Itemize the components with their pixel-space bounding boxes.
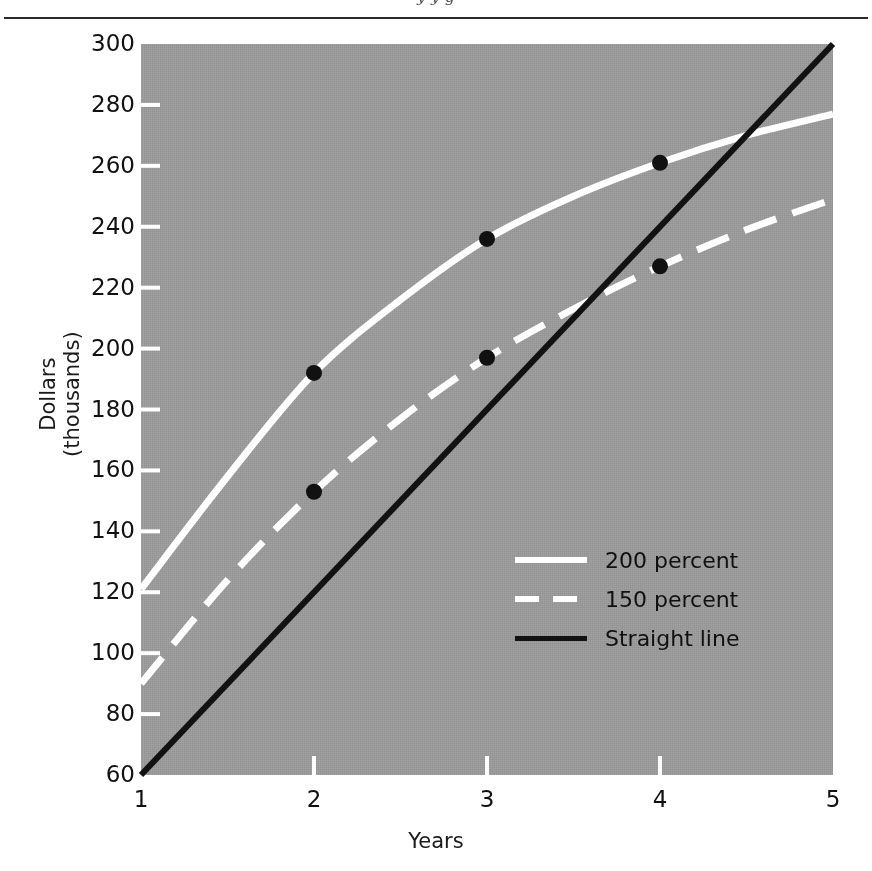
legend-label: 200 percent [605,548,738,574]
y-axis-tick-label: 260 [65,154,135,177]
x-axis-tick-labels: 12345 [141,788,833,818]
x-axis-tick-label: 1 [121,788,161,811]
x-axis-title: Years [0,829,872,853]
x-axis-tick-label: 3 [467,788,507,811]
y-axis-tick-label: 240 [65,215,135,238]
y-axis-title-line2: (thousands) [60,294,84,494]
legend-swatch [515,636,587,641]
figure-page: y y g 6080100120140160180200220240260280… [0,0,872,871]
data-point-marker [652,155,668,171]
legend-item: 150 percent [515,587,815,613]
x-axis-tick-label: 2 [294,788,334,811]
x-axis-ticks [314,756,660,775]
y-axis-ticks [141,105,160,714]
y-axis-title: Dollars (thousands) [36,294,84,494]
y-axis-tick-label: 140 [65,519,135,542]
series-line [141,44,833,775]
data-point-marker [306,365,322,381]
x-axis-tick-label: 5 [813,788,853,811]
y-axis-tick-label: 300 [65,32,135,55]
x-axis-tick-label: 4 [640,788,680,811]
legend-item: 200 percent [515,548,815,574]
data-point-marker [479,350,495,366]
y-axis-tick-label: 280 [65,93,135,116]
y-axis-tick-label: 120 [65,580,135,603]
data-point-marker [306,484,322,500]
data-point-marker [479,231,495,247]
plot-area [141,44,833,775]
chart-canvas [141,44,833,775]
legend-label: 150 percent [605,587,738,613]
y-axis-tick-label: 100 [65,641,135,664]
legend-swatch [515,596,587,602]
y-axis-tick-label: 60 [65,763,135,786]
y-axis-title-line1: Dollars [36,358,60,431]
data-point-marker [652,258,668,274]
chart-legend: 200 percent150 percentStraight line [515,548,815,658]
legend-label: Straight line [605,626,739,652]
legend-item: Straight line [515,626,815,652]
legend-swatch [515,557,587,563]
series-layer [141,44,833,775]
y-axis-tick-label: 80 [65,702,135,725]
